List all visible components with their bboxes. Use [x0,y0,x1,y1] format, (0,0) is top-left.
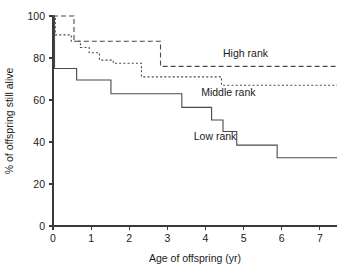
y-tick-label: 100 [27,10,45,22]
chart-svg: 020406080100 01234567 High rankMiddle ra… [0,0,346,278]
y-tick-label: 20 [33,178,45,190]
x-tick-group: 01234567 [50,226,323,244]
x-axis-title: Age of offspring (yr) [149,252,241,264]
series-curve-high-rank [53,16,337,66]
x-tick-label: 2 [126,232,132,244]
x-tick-label: 7 [317,232,323,244]
y-tick-label: 80 [33,52,45,64]
y-tick-group: 020406080100 [27,10,53,232]
y-tick-label: 0 [39,220,45,232]
series-label-group: High rankMiddle rankLow rank [194,47,269,142]
x-tick-label: 6 [279,232,285,244]
series-curve-middle-rank [53,16,337,85]
series-label-high-rank: High rank [223,47,269,59]
survival-curve-chart: 020406080100 01234567 High rankMiddle ra… [0,0,346,278]
x-tick-label: 0 [50,232,56,244]
x-axis-group: 01234567 [50,226,337,244]
x-tick-label: 1 [88,232,94,244]
series-label-low-rank: Low rank [194,130,237,142]
y-axis-group: 020406080100 [27,10,53,232]
x-tick-label: 4 [203,232,209,244]
y-tick-label: 60 [33,94,45,106]
x-tick-label: 3 [164,232,170,244]
y-tick-label: 40 [33,136,45,148]
series-label-middle-rank: Middle rank [201,86,256,98]
y-axis-title: % of offspring still alive [3,68,15,175]
x-tick-label: 5 [241,232,247,244]
